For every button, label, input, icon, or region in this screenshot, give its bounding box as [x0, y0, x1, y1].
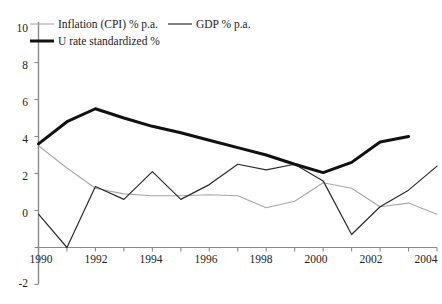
legend-label-inflation: Inflation (CPI) % p.a.	[58, 19, 158, 31]
y-tick-label-minus2: -2	[6, 278, 28, 290]
y-tick-label-4: 4	[6, 134, 28, 146]
series-line-1	[39, 164, 438, 247]
x-tick-label-2004: 2004	[406, 254, 442, 266]
x-tick-label-1990: 1990	[21, 254, 61, 266]
legend-label-urate: U rate standardized %	[58, 36, 160, 48]
axis-lines	[39, 22, 438, 284]
y-tick-label-10: 10	[6, 23, 28, 35]
x-tick-label-2000: 2000	[296, 254, 336, 266]
x-tick-label-2002: 2002	[351, 254, 391, 266]
x-tick-label-1998: 1998	[241, 254, 281, 266]
legend-label-gdp: GDP % p.a.	[196, 19, 251, 31]
y-tick-label-2: 2	[6, 171, 28, 183]
line-chart: 10 8 6 4 2 0 -2 1990 1992 1994 1996 1998…	[0, 0, 442, 304]
y-tick-label-0: 0	[6, 208, 28, 220]
x-tick-label-1994: 1994	[131, 254, 171, 266]
y-tick-label-6: 6	[6, 97, 28, 109]
series-line-2	[39, 109, 409, 173]
data-series-layer	[39, 109, 438, 248]
x-tick-label-1996: 1996	[186, 254, 226, 266]
series-line-0	[39, 146, 438, 214]
y-tick-label-8: 8	[6, 60, 28, 72]
x-axis-ticks	[39, 248, 438, 252]
x-tick-label-1992: 1992	[76, 254, 116, 266]
